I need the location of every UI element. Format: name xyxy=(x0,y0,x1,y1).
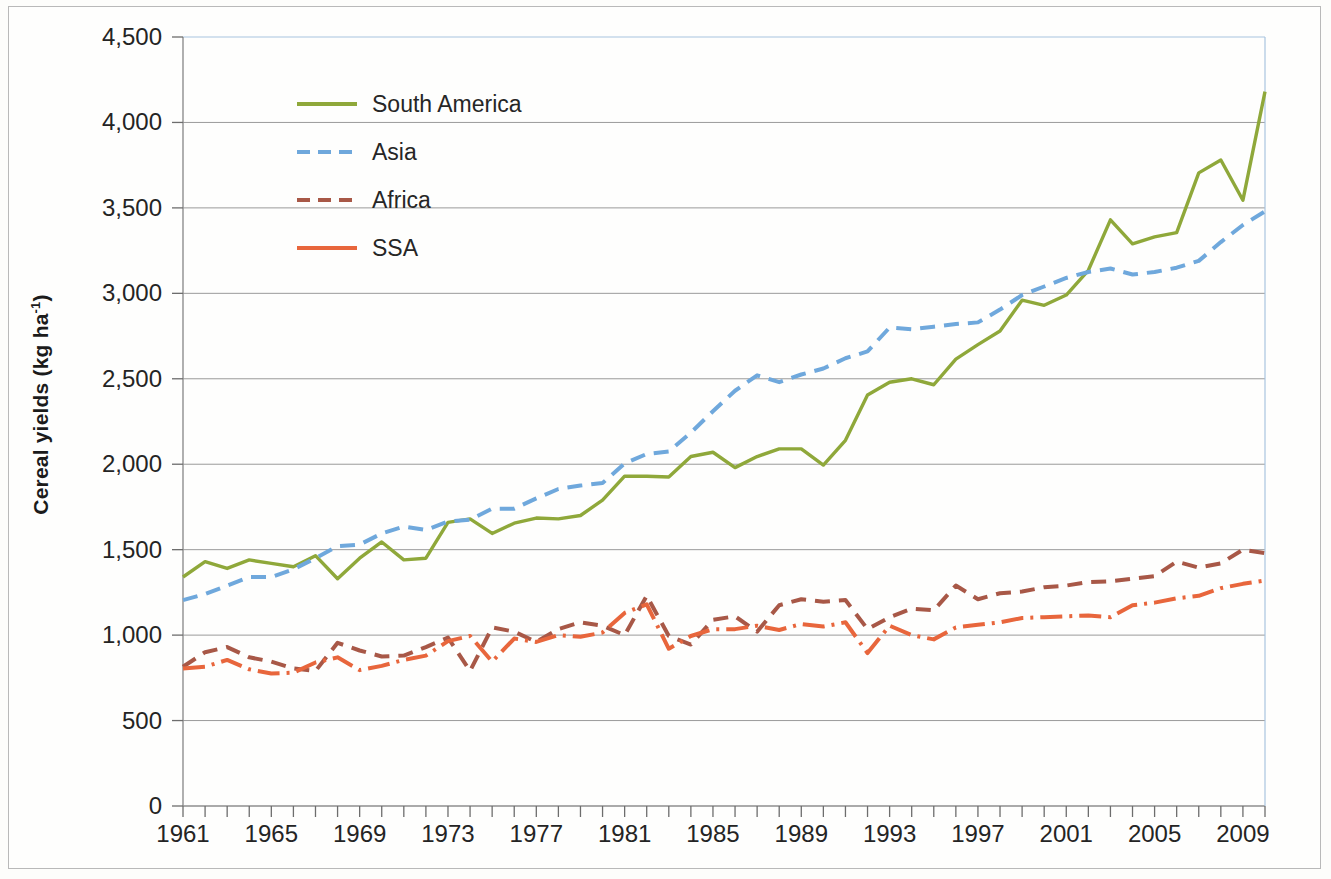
cereal-yields-line-chart: Cereal yields (kg ha-1) 05001,0001,5002,… xyxy=(0,0,1331,879)
legend-item-label: SSA xyxy=(372,235,418,262)
legend-swatch-icon xyxy=(296,238,358,258)
y-axis-ticks xyxy=(172,37,183,806)
legend-swatch-icon xyxy=(296,94,358,114)
legend-item-ssa[interactable]: SSA xyxy=(296,224,616,272)
legend-item-asia[interactable]: Asia xyxy=(296,128,616,176)
legend-item-south-america[interactable]: South America xyxy=(296,80,616,128)
legend-item-africa[interactable]: Africa xyxy=(296,176,616,224)
series-line-ssa xyxy=(183,580,1265,673)
plot-area xyxy=(0,0,1331,879)
series-line-africa xyxy=(183,550,1265,671)
legend-item-label: South America xyxy=(372,91,522,118)
legend-swatch-icon xyxy=(296,190,358,210)
legend-swatch-icon xyxy=(296,142,358,162)
legend-item-label: Africa xyxy=(372,187,431,214)
x-axis-ticks xyxy=(183,806,1265,817)
legend-item-label: Asia xyxy=(372,139,417,166)
chart-legend: South AmericaAsiaAfricaSSA xyxy=(296,80,616,272)
